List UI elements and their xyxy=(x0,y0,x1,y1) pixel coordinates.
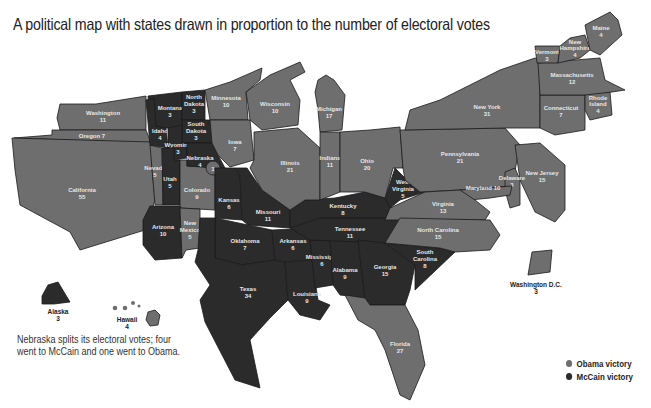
svg-text:Iowa: Iowa xyxy=(228,139,242,145)
svg-text:Vermont: Vermont xyxy=(535,49,559,55)
svg-text:North Carolina: North Carolina xyxy=(417,227,459,233)
svg-text:Arkansas: Arkansas xyxy=(279,238,307,244)
svg-text:Virginia: Virginia xyxy=(392,186,415,192)
nebraska-footnote: Nebraska splits its electoral votes; fou… xyxy=(17,334,188,358)
svg-text:Idaho: Idaho xyxy=(152,128,168,134)
legend: Obama victory McCain victory xyxy=(566,357,642,383)
svg-text:55: 55 xyxy=(79,194,86,200)
legend-item-obama: Obama victory xyxy=(566,357,633,370)
svg-text:South: South xyxy=(417,249,434,255)
svg-text:Wisconsin: Wisconsin xyxy=(260,101,290,107)
legend-item-mccain: McCain victory xyxy=(566,370,633,383)
state-new-mexico[interactable]: New Mexico 5 xyxy=(180,208,201,258)
svg-text:Oregon 7: Oregon 7 xyxy=(79,133,106,139)
state-north-dakota[interactable]: North Dakota 3 xyxy=(182,90,205,120)
svg-text:Ohio: Ohio xyxy=(360,158,374,164)
svg-text:10: 10 xyxy=(272,108,279,114)
svg-text:Montana: Montana xyxy=(158,105,183,111)
svg-text:21: 21 xyxy=(287,167,294,173)
svg-text:Michigan: Michigan xyxy=(316,106,342,112)
svg-text:Carolina: Carolina xyxy=(413,256,438,262)
svg-text:New: New xyxy=(184,220,197,226)
svg-text:21: 21 xyxy=(457,158,464,164)
state-rhode-island[interactable]: Rhode Island 4 xyxy=(585,92,612,120)
svg-text:Georgia: Georgia xyxy=(374,264,397,270)
svg-text:North: North xyxy=(186,94,202,100)
svg-text:20: 20 xyxy=(364,165,371,171)
obama-swatch-icon xyxy=(566,360,572,367)
state-hawaii[interactable]: Hawaii 4 xyxy=(113,301,160,330)
svg-text:South: South xyxy=(188,121,205,127)
svg-text:11: 11 xyxy=(100,117,107,123)
svg-text:Virginia: Virginia xyxy=(432,201,455,207)
svg-text:Minnesota: Minnesota xyxy=(211,95,241,101)
svg-text:Texas: Texas xyxy=(240,286,257,292)
svg-text:New Jersey: New Jersey xyxy=(525,170,559,176)
svg-text:Illinois: Illinois xyxy=(280,160,300,166)
svg-text:34: 34 xyxy=(245,293,252,299)
state-new-jersey[interactable]: New Jersey 15 xyxy=(515,143,565,222)
svg-text:Kentucky: Kentucky xyxy=(329,203,357,209)
state-washington[interactable]: Washington 11 xyxy=(57,96,146,130)
svg-text:Arizona: Arizona xyxy=(152,224,175,230)
legend-label-obama: Obama victory xyxy=(577,359,632,369)
svg-text:31: 31 xyxy=(484,111,491,117)
state-alaska[interactable]: Alaska 3 xyxy=(42,282,70,322)
svg-text:Colorado: Colorado xyxy=(184,187,211,193)
svg-text:Hawaii: Hawaii xyxy=(117,316,138,323)
mccain-swatch-icon xyxy=(566,373,572,380)
state-dc[interactable]: Washington D.C. 3 xyxy=(510,250,562,295)
svg-text:Maryland 10: Maryland 10 xyxy=(466,185,501,191)
svg-text:California: California xyxy=(68,187,96,193)
svg-text:10: 10 xyxy=(223,102,230,108)
svg-text:11: 11 xyxy=(327,162,334,168)
svg-text:10: 10 xyxy=(160,231,167,237)
state-new-york[interactable]: New York 31 xyxy=(405,58,540,130)
svg-text:Delaware: Delaware xyxy=(499,175,526,181)
state-south-dakota[interactable]: South Dakota 3 xyxy=(182,120,212,143)
svg-text:3: 3 xyxy=(534,288,538,295)
svg-text:Utah: Utah xyxy=(163,176,177,182)
state-kansas[interactable]: Kansas 6 xyxy=(215,168,242,220)
svg-text:15: 15 xyxy=(435,234,442,240)
svg-text:Indiana: Indiana xyxy=(319,155,341,161)
state-connecticut[interactable]: Connecticut 7 xyxy=(540,95,585,135)
svg-text:15: 15 xyxy=(539,177,546,183)
svg-text:Nebraska: Nebraska xyxy=(186,155,214,161)
state-pennsylvania[interactable]: Pennsylvania 21 xyxy=(400,128,520,192)
svg-text:Tennessee: Tennessee xyxy=(335,226,366,232)
svg-text:Maine: Maine xyxy=(592,25,610,31)
svg-text:12: 12 xyxy=(569,79,576,85)
svg-text:11: 11 xyxy=(347,233,354,239)
state-vermont[interactable]: Vermont 3 xyxy=(535,46,560,63)
state-arizona[interactable]: Arizona 10 xyxy=(143,206,182,260)
svg-text:15: 15 xyxy=(382,271,389,277)
svg-text:Washington: Washington xyxy=(86,110,120,116)
svg-text:13: 13 xyxy=(440,208,447,214)
svg-text:27: 27 xyxy=(397,348,404,354)
state-florida[interactable]: Florida 27 xyxy=(345,295,425,400)
svg-text:17: 17 xyxy=(326,113,333,119)
svg-text:Alabama: Alabama xyxy=(332,267,358,273)
svg-text:Connecticut: Connecticut xyxy=(544,105,579,111)
svg-text:Florida: Florida xyxy=(390,341,411,347)
svg-text:Kansas: Kansas xyxy=(218,197,240,203)
state-maine[interactable]: Maine 4 xyxy=(585,12,622,55)
svg-text:Missouri: Missouri xyxy=(256,209,281,215)
svg-text:Dakota: Dakota xyxy=(184,101,205,107)
svg-text:Dakota: Dakota xyxy=(186,128,207,134)
svg-text:Oklahoma: Oklahoma xyxy=(230,238,260,244)
svg-text:3: 3 xyxy=(56,315,60,322)
svg-text:Massachusetts: Massachusetts xyxy=(550,72,594,78)
legend-label-mccain: McCain victory xyxy=(577,372,633,382)
state-massachusetts[interactable]: Massachusetts 12 xyxy=(538,58,625,95)
state-michigan[interactable]: Michigan 17 xyxy=(315,75,345,132)
state-california[interactable]: California 55 xyxy=(12,138,155,250)
state-indiana[interactable]: Indiana 11 xyxy=(319,132,341,200)
svg-text:New York: New York xyxy=(474,104,501,110)
svg-text:Hampshire: Hampshire xyxy=(559,45,591,51)
svg-text:Louisiana: Louisiana xyxy=(293,291,322,297)
svg-text:11: 11 xyxy=(265,216,272,222)
svg-text:Alaska: Alaska xyxy=(48,308,69,315)
svg-text:4: 4 xyxy=(125,323,129,330)
